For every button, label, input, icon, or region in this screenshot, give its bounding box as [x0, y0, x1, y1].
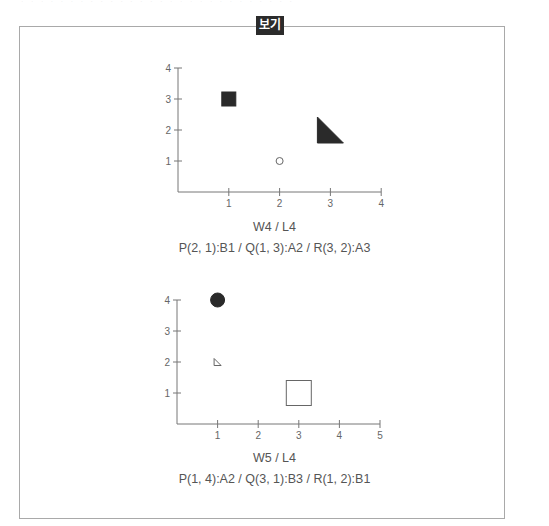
x-tick-label: 5: [377, 430, 383, 441]
point-r-triangle: [214, 359, 221, 366]
x-tick-label: 3: [296, 430, 302, 441]
point-q-square: [286, 381, 311, 406]
y-tick-label: 1: [164, 388, 170, 399]
y-tick-label: 3: [164, 326, 170, 337]
plot-1-caption-size: W4 / L4: [0, 220, 549, 234]
y-tick-label: 4: [164, 295, 170, 306]
plot-1-caption-points: P(2, 1):B1 / Q(1, 3):A2 / R(3, 2):A3: [0, 241, 549, 255]
y-tick-label: 2: [164, 357, 170, 368]
x-tick-label: 1: [215, 430, 221, 441]
x-tick-label: 2: [255, 430, 261, 441]
plot-2-caption-size: W5 / L4: [0, 451, 549, 465]
x-tick-label: 4: [337, 430, 343, 441]
point-p-circle: [211, 293, 225, 307]
plot-2-caption-points: P(1, 4):A2 / Q(3, 1):B3 / R(1, 2):B1: [0, 472, 549, 486]
plot-2: 123451234: [0, 0, 549, 526]
